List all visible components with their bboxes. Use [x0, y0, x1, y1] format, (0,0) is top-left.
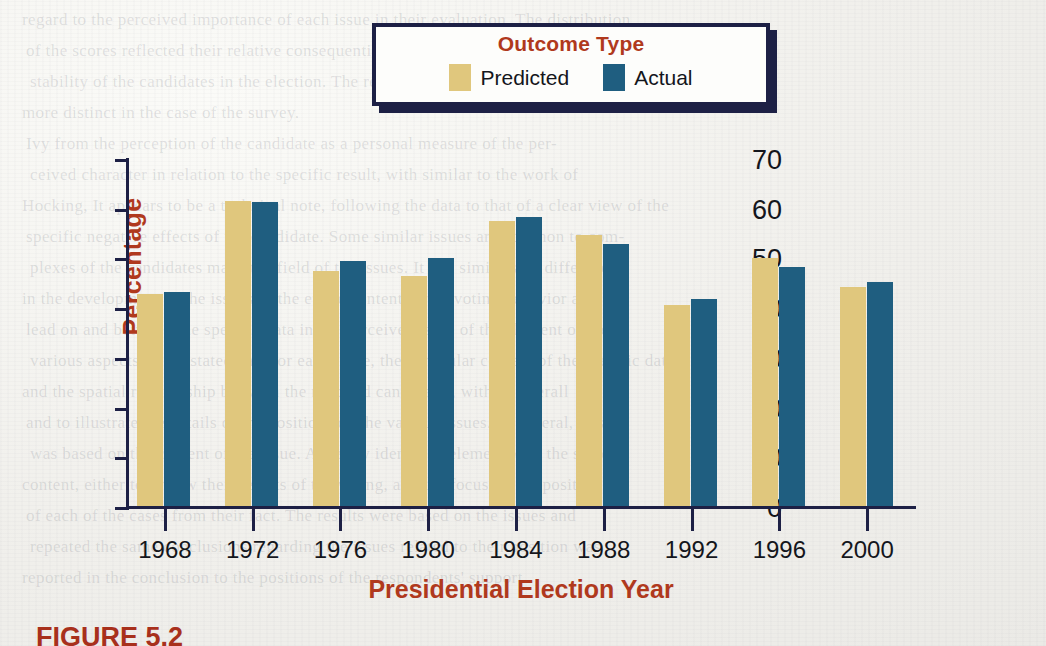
x-axis-label: Presidential Election Year: [126, 575, 916, 604]
bar-actual-1976[interactable]: [340, 261, 366, 508]
legend-swatch-actual-icon: [603, 64, 625, 91]
x-axis-tick: [603, 509, 606, 531]
bar-actual-1996[interactable]: [779, 267, 805, 508]
bar-actual-1972[interactable]: [252, 202, 278, 508]
x-axis-tick: [252, 509, 255, 531]
bar-predicted-1988[interactable]: [576, 235, 602, 508]
x-axis-tick-label: 1968: [138, 536, 191, 564]
bar-actual-1980[interactable]: [428, 258, 454, 508]
bar-predicted-1968[interactable]: [137, 294, 163, 508]
x-axis-tick: [164, 509, 167, 531]
x-axis-tick-label: 1996: [753, 536, 806, 564]
y-axis-tick: [115, 308, 126, 311]
legend-title: Outcome Type: [376, 32, 766, 56]
y-axis-tick: [115, 209, 126, 212]
y-axis-tick: [115, 408, 126, 411]
y-axis-tick: [115, 258, 126, 261]
legend-label-predicted: Predicted: [480, 66, 569, 90]
y-axis-tick: [115, 457, 126, 460]
x-axis-tick-label: 1976: [314, 536, 367, 564]
figure-caption: FIGURE 5.2: [36, 622, 183, 646]
x-axis-tick-label: 1972: [226, 536, 279, 564]
legend-items: Predicted Actual: [376, 64, 766, 91]
legend-swatch-predicted-icon: [449, 64, 471, 91]
x-axis-tick-label: 1984: [489, 536, 542, 564]
bar-actual-1988[interactable]: [603, 244, 629, 508]
y-axis-tick: [115, 507, 126, 510]
x-axis-tick: [339, 509, 342, 531]
bar-predicted-1996[interactable]: [752, 258, 778, 508]
y-axis-tick-label: 60: [722, 194, 782, 225]
bar-predicted-1992[interactable]: [664, 305, 690, 508]
x-axis-tick: [427, 509, 430, 531]
bar-predicted-1976[interactable]: [313, 271, 339, 508]
bar-predicted-2000[interactable]: [840, 287, 866, 508]
x-axis-tick: [778, 509, 781, 531]
bar-actual-1984[interactable]: [516, 217, 542, 508]
y-axis-tick: [115, 358, 126, 361]
bar-actual-2000[interactable]: [867, 282, 893, 508]
x-axis-tick-label: 2000: [840, 536, 893, 564]
y-axis-line: [126, 158, 129, 510]
legend-item-predicted[interactable]: Predicted: [449, 64, 569, 91]
x-axis-tick-label: 1992: [665, 536, 718, 564]
x-axis-tick: [515, 509, 518, 531]
x-axis-tick: [866, 509, 869, 531]
legend-label-actual: Actual: [634, 66, 692, 90]
bar-predicted-1972[interactable]: [225, 201, 251, 508]
y-axis-tick: [115, 159, 126, 162]
y-axis-tick-label: 70: [722, 145, 782, 176]
x-axis-tick-label: 1988: [577, 536, 630, 564]
bar-predicted-1980[interactable]: [401, 276, 427, 508]
legend-item-actual[interactable]: Actual: [603, 64, 692, 91]
bar-actual-1992[interactable]: [691, 299, 717, 508]
x-axis-line: [126, 506, 916, 509]
legend-box: Outcome Type Predicted Actual: [372, 23, 770, 106]
bar-predicted-1984[interactable]: [489, 221, 515, 508]
x-axis-tick: [691, 509, 694, 531]
plot-area: Percentage 010203040506070: [126, 160, 916, 508]
x-axis-tick-label: 1980: [402, 536, 455, 564]
bar-actual-1968[interactable]: [164, 292, 190, 508]
